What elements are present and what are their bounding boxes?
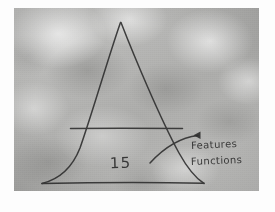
triangle-base-edge (42, 183, 204, 184)
functions-label: Functions (191, 155, 243, 167)
photo-image-area: 15 Features Functions (14, 8, 259, 191)
triangle-left-edge (42, 23, 121, 184)
photo-print: 15 Features Functions (0, 0, 275, 212)
pyramid-quantity-label: 15 (110, 156, 132, 172)
features-label: Features (191, 139, 238, 151)
arrowhead-icon (194, 132, 201, 140)
